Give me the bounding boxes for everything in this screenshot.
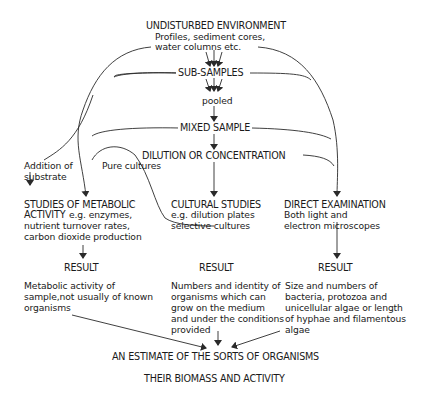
result-cultural-line3: grow on the medium: [171, 302, 265, 313]
result-direct-line3: unicellular algae or length: [285, 302, 403, 313]
metabolic-studies-detail1: e.g. enzymes,: [69, 209, 132, 220]
pooled-label: pooled: [202, 95, 233, 106]
mixed-sample-label: MIXED SAMPLE: [178, 122, 252, 133]
result-direct-line2: bacteria, protozoa and: [285, 291, 387, 302]
result-metabolic-line1: Metabolic activity of: [24, 280, 115, 291]
undisturbed-environment-line2: water columns etc.: [155, 41, 241, 52]
result-cultural-line5: provided: [171, 324, 211, 335]
arrow-undisturbed-subsamples-right: [218, 52, 222, 66]
metabolic-studies-title2: ACTIVITY: [24, 209, 65, 220]
result-cultural-line4: and under the conditions: [171, 313, 284, 324]
addition-substrate-line2: substrate: [24, 171, 67, 182]
result-label-metabolic: RESULT: [64, 262, 99, 273]
direct-examination-detail1: Both light and: [284, 209, 347, 220]
estimate-label: AN ESTIMATE OF THE SORTS OF ORGANISMS: [112, 351, 319, 362]
undisturbed-environment-title: UNDISTURBED ENVIRONMENT: [146, 20, 286, 31]
result-cultural-line1: Numbers and identity of: [171, 280, 280, 291]
result-direct-line5: algae: [285, 324, 310, 335]
metabolic-studies-detail2: nutrient turnover rates,: [24, 220, 130, 231]
sub-samples-label: SUB-SAMPLES: [176, 67, 245, 78]
result-direct-line1: Size and numbers of: [285, 280, 378, 291]
result-label-cultural: RESULT: [199, 262, 234, 273]
result-label-direct: RESULT: [318, 262, 353, 273]
result-metabolic-line3: organisms: [24, 302, 71, 313]
arrow-direct-estimate: [232, 331, 280, 347]
result-metabolic-line2: sample,not usually of known: [24, 291, 153, 302]
cultural-studies-detail1: e.g. dilution plates: [171, 209, 255, 220]
pure-cultures-label: Pure cultures: [102, 160, 161, 171]
arrow-undisturbed-metabolic: [78, 47, 151, 196]
connector-lines: [0, 0, 425, 396]
result-direct-line4: of hyphae and filamentous: [285, 313, 406, 324]
arrow-undisturbed-direct: [258, 47, 338, 196]
addition-substrate-line1: Addition of: [24, 160, 73, 171]
dilution-concentration-label: DILUTION OR CONCENTRATION: [140, 150, 288, 161]
cultural-studies-detail2: selective cultures: [171, 220, 250, 231]
result-cultural-line2: organisms which can: [171, 291, 266, 302]
arrow-undisturbed-subsamples-left: [206, 52, 210, 66]
biomass-activity-label: THEIR BIOMASS AND ACTIVITY: [144, 373, 285, 384]
metabolic-studies-detail3: carbon dioxide production: [24, 231, 142, 242]
direct-examination-detail2: electron microscopes: [284, 220, 380, 231]
